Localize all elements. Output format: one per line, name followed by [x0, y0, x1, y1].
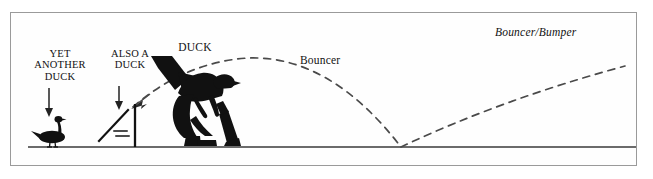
duck-zero-score-mark	[99, 110, 129, 141]
ball-direction-arrowhead	[131, 100, 147, 109]
thin-arrow-down-head-also	[115, 101, 123, 110]
ball-trajectory-post-bounce	[401, 66, 625, 147]
duck-bird-silhouette	[31, 116, 67, 147]
thin-arrow-down-head-duck	[45, 108, 53, 117]
label-also-a-duck: ALSO A DUCK	[95, 48, 165, 71]
label-bouncer-bumper: Bouncer/Bumper	[495, 26, 620, 38]
label-duck: DUCK	[165, 41, 225, 53]
label-yet-another-duck: YET ANOTHER DUCK	[14, 48, 106, 82]
cricket-bouncer-figure: YET ANOTHER DUCK ALSO A DUCK DUCK Bounce…	[0, 0, 653, 179]
label-bouncer: Bouncer	[300, 54, 370, 66]
